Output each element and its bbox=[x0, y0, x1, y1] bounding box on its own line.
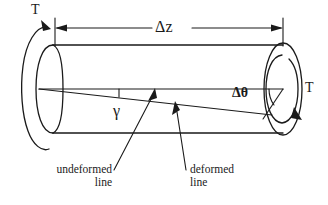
undeformed-line-label: undeformed line bbox=[48, 163, 112, 189]
deformed-line-label-row2: line bbox=[190, 176, 260, 189]
dimension-arrowhead-right bbox=[271, 24, 283, 31]
undeformed-line-label-row1: undeformed bbox=[48, 163, 112, 176]
undeformed-leader-arrowhead bbox=[148, 88, 157, 101]
deformed-line-label-row1: deformed bbox=[190, 163, 260, 176]
deformed-leader-group bbox=[172, 101, 186, 170]
twist-angle-arc bbox=[269, 89, 274, 105]
length-dimension-label: Δz bbox=[155, 18, 173, 36]
twist-angle-label: Δθ bbox=[232, 85, 248, 101]
shear-strain-label: γ bbox=[113, 102, 120, 120]
torque-label-right: T bbox=[305, 80, 314, 96]
undeformed-line-label-row2: line bbox=[48, 176, 112, 189]
deformed-line-label: deformed line bbox=[190, 163, 260, 189]
torque-label-left: T bbox=[31, 2, 40, 18]
torsion-figure: T T Δz Δθ γ undeformed line deformed lin… bbox=[0, 0, 328, 205]
left-torque-loop-arc bbox=[22, 27, 49, 150]
left-torque-arrowhead bbox=[41, 20, 51, 31]
deformed-leader-arrowhead bbox=[172, 101, 180, 115]
deformed-leader-line bbox=[177, 112, 186, 170]
dimension-arrowhead-left bbox=[55, 24, 67, 31]
